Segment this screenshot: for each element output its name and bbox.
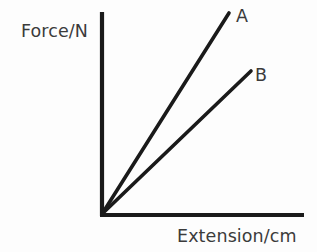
- y-axis-label: Force/N: [21, 21, 88, 42]
- x-axis-label: Extension/cm: [177, 226, 297, 247]
- series-line-b: [102, 71, 251, 214]
- series-label-a: A: [236, 6, 248, 27]
- series-label-b: B: [255, 65, 267, 86]
- force-extension-graph: Force/N Extension/cm A B: [0, 0, 317, 252]
- series-line-a: [102, 13, 229, 214]
